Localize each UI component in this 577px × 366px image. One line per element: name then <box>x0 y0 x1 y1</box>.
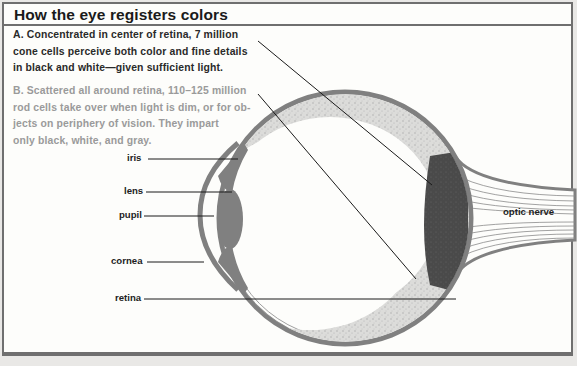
text-line: cone cells perceive both color and fine … <box>13 44 263 61</box>
label-iris: iris <box>127 152 141 163</box>
label-retina: retina <box>115 292 141 303</box>
label-lens: lens <box>124 185 143 196</box>
lens <box>217 189 243 249</box>
text-line: in black and white—given sufficient ligh… <box>13 60 263 77</box>
bottom-border <box>2 354 573 366</box>
rod-cells-description: B. Scattered all around retina, 110–125 … <box>13 83 263 149</box>
text-line: rod cells take over when light is dim, o… <box>13 100 263 117</box>
label-pupil: pupil <box>119 209 142 220</box>
text-line: jects on periphery of vision. They impar… <box>13 116 263 133</box>
label-cornea: cornea <box>111 255 142 266</box>
cone-cells-description: A. Concentrated in center of retina, 7 m… <box>13 27 263 77</box>
text-line: only black, white, and gray. <box>13 133 263 150</box>
text-line: A. Concentrated in center of retina, 7 m… <box>13 27 263 44</box>
text-line: B. Scattered all around retina, 110–125 … <box>13 83 263 100</box>
label-optic-nerve: optic nerve <box>503 206 554 217</box>
